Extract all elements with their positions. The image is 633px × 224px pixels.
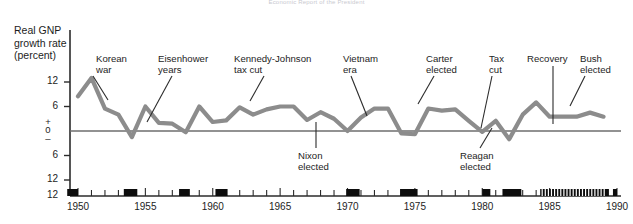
chart-annotation: Recovery <box>527 53 568 64</box>
chart-annotation: Reagan elected <box>460 150 494 172</box>
y-tick-label: 12 <box>28 75 58 86</box>
plot-area <box>0 0 633 224</box>
data-line-real-gnp-growth <box>78 78 604 139</box>
zero-minus-sign: – <box>38 135 58 143</box>
y-tick-label-bottom: 12 <box>28 189 58 200</box>
x-tick-label: 1960 <box>191 201 235 212</box>
chart-figure: Economic Report of the President Real GN… <box>0 0 633 224</box>
recession-bar <box>540 189 609 196</box>
x-tick-label: 1985 <box>528 201 572 212</box>
y-tick-label: 6 <box>28 100 58 111</box>
chart-annotation: Carter elected <box>426 53 457 75</box>
annotation-leader-line <box>481 76 492 128</box>
recession-bar <box>400 189 418 196</box>
recession-bar <box>613 189 617 196</box>
annotation-leader-line <box>250 76 264 101</box>
annotation-leader-line <box>351 76 367 116</box>
chart-annotation: Bush elected <box>580 53 611 75</box>
recession-bar <box>179 189 190 196</box>
chart-annotation: Kennedy-Johnson tax cut <box>234 53 311 75</box>
chart-annotation: Korean war <box>96 53 127 75</box>
y-tick-label-zero: +0– <box>38 118 58 143</box>
recession-bar <box>124 189 137 196</box>
recession-bar <box>215 189 227 196</box>
annotation-leader-line <box>147 76 172 122</box>
y-tick-label: 6 <box>28 149 58 160</box>
y-tick-label: 12 <box>28 173 58 184</box>
chart-annotation: Tax cut <box>489 53 504 75</box>
recession-bar <box>67 189 78 196</box>
x-tick-label: 1950 <box>56 201 100 212</box>
x-tick-label: 1990 <box>595 201 633 212</box>
annotation-leader-line <box>418 76 434 104</box>
chart-annotation: Nixon elected <box>298 150 329 172</box>
chart-annotation: Vietnam era <box>343 53 378 75</box>
recession-bar <box>482 189 490 196</box>
x-tick-label: 1975 <box>393 201 437 212</box>
chart-annotation: Eisenhower years <box>158 53 208 75</box>
recession-bar <box>502 189 521 196</box>
annotation-leader-line <box>570 76 585 106</box>
x-tick-label: 1965 <box>258 201 302 212</box>
x-tick-label: 1955 <box>123 201 167 212</box>
recession-bar <box>346 189 359 196</box>
x-tick-label: 1970 <box>326 201 370 212</box>
x-tick-label: 1980 <box>460 201 504 212</box>
